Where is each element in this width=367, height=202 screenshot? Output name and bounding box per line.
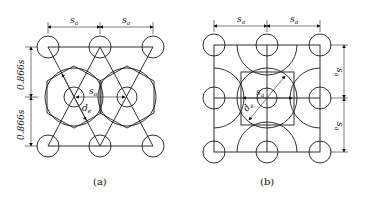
figure-canvas: sa sa 0.866s 0.866s <box>0 0 367 202</box>
panel-b-vertical-lower-label: sa <box>334 122 345 131</box>
panel-a-vertical-dimension <box>25 47 38 146</box>
panel-a-vertical-upper-label: 0.866s <box>16 59 26 90</box>
panel-a-top-dimension <box>48 22 153 34</box>
panel-b-caption: (b) <box>260 176 274 187</box>
panel-a-center-spacing-label: sa <box>89 86 98 97</box>
panel-a-caption: (a) <box>93 176 107 187</box>
panel-b-diagram: sa sa sa sa <box>184 14 350 187</box>
panel-b-top-spacing-left-label: sa <box>237 14 246 25</box>
panel-a-top-spacing-right-label: sa <box>122 15 131 26</box>
panel-b-vertical-dimension <box>330 45 348 152</box>
panel-a-piles <box>37 36 164 157</box>
panel-b-vertical-upper-label: sa <box>334 68 345 77</box>
panel-b-diameter-label: de <box>241 99 256 114</box>
panel-b-top-dimension <box>214 20 320 32</box>
panel-a-diagram: sa sa 0.866s 0.866s <box>16 15 164 187</box>
panel-b-square-grid <box>214 45 320 152</box>
panel-a-top-spacing-left-label: sa <box>70 15 79 26</box>
panel-b-top-spacing-right-label: sa <box>290 14 299 25</box>
panel-a-vertical-lower-label: 0.866s <box>16 109 26 140</box>
panel-a-diameter-label: de <box>82 103 92 114</box>
